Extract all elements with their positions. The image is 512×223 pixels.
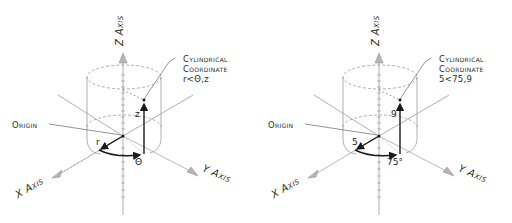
coordinate-callout: Cylindrical Coordinate r<Θ,z [183, 54, 228, 84]
callout-line-1: Cylindrical [183, 54, 228, 64]
callout-line-1: Cylindrical [439, 54, 484, 64]
panel-example: Z Axis X Axis Y Axis Origin Cylindrical … [256, 0, 512, 223]
x-axis-arrow-icon [52, 170, 62, 178]
callout-line-2: Coordinate [183, 64, 228, 74]
origin-label: Origin [268, 120, 293, 130]
cylindrical-diagram-generic [0, 0, 256, 223]
z-axis-label: Z Axis [114, 15, 125, 46]
x-axis-arrow-icon [308, 170, 318, 178]
angle-label: Θ [135, 157, 142, 167]
cylindrical-diagram-example [256, 0, 512, 223]
radius-label: r [96, 137, 100, 147]
z-axis-label: Z Axis [370, 15, 381, 46]
callout-line-2: Coordinate [439, 64, 484, 74]
angle-label: 75° [387, 157, 403, 167]
panel-generic: Z Axis X Axis Y Axis Origin Cylindrical … [0, 0, 256, 223]
callout-line-3: 5<75,9 [439, 74, 484, 84]
z-axis-arrow-icon [119, 53, 127, 63]
height-label: z [135, 109, 140, 119]
height-label: 9 [391, 109, 397, 119]
coordinate-callout: Cylindrical Coordinate 5<75,9 [439, 54, 484, 84]
y-axis-arrow-icon [187, 167, 198, 176]
y-axis-arrow-icon [443, 167, 454, 176]
origin-label: Origin [12, 120, 37, 130]
callout-line-3: r<Θ,z [183, 74, 228, 84]
z-axis-arrow-icon [375, 53, 383, 63]
radius-label: 5 [352, 137, 358, 147]
